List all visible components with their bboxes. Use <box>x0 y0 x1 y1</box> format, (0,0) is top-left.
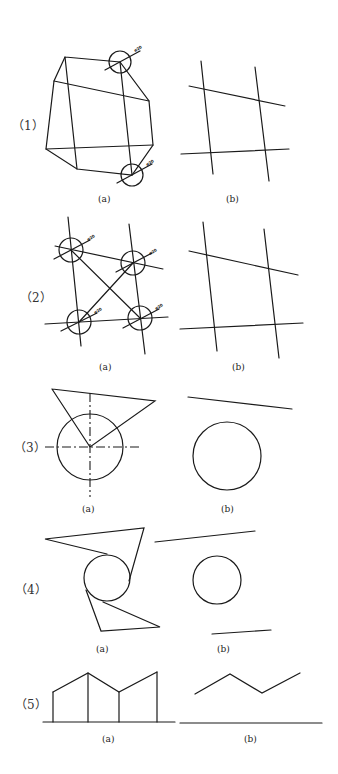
problem-1-number: （1） <box>12 119 44 133</box>
figure-5a <box>43 672 175 722</box>
label-2a: (a) <box>99 362 111 372</box>
problem-5-number: （5） <box>15 698 47 712</box>
dimension-label: ø20 <box>93 306 103 315</box>
label-4a: (a) <box>96 644 108 654</box>
figure-3a <box>45 389 155 497</box>
figure-4b <box>155 531 271 634</box>
figure-5b <box>180 673 322 723</box>
figure-3b <box>188 397 292 490</box>
label-3a: (a) <box>82 504 94 514</box>
label-1a: (a) <box>98 194 110 204</box>
dimension-label: ø20 <box>86 233 96 242</box>
figure-4a <box>45 528 160 631</box>
label-5b: (b) <box>244 734 257 744</box>
figure-1a: ø20 ø20 <box>46 44 155 186</box>
label-2b: (b) <box>232 362 245 372</box>
figure-1b <box>181 61 289 181</box>
figure-2a: ø20 ø20 ø20 ø20 <box>45 217 168 354</box>
label-1b: (b) <box>226 194 239 204</box>
figure-2b <box>180 222 303 358</box>
label-4b: (b) <box>217 644 230 654</box>
drawing-exercises: （1） ø20 ø20 (a) (b) （2） ø20 ø20 <box>0 0 338 774</box>
label-3b: (b) <box>221 504 234 514</box>
dimension-label: ø20 <box>148 247 158 256</box>
label-5a: (a) <box>102 734 114 744</box>
problem-2-number: （2） <box>20 291 52 305</box>
problem-3-number: （3） <box>14 441 46 455</box>
problem-4-number: （4） <box>15 583 47 597</box>
